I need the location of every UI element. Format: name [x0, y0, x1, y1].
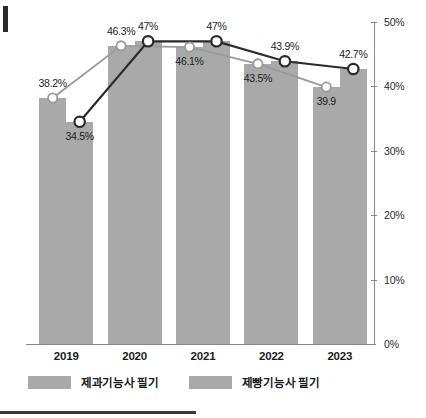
chart-container: 0%10%20%30%40%50% 20192020202120222023 3…	[0, 0, 426, 418]
value-label: 43.5%	[244, 72, 272, 84]
y-axis-tick-label: 40%	[384, 80, 404, 92]
x-axis-label: 2020	[122, 350, 147, 362]
bar	[313, 87, 340, 344]
y-axis-tick	[371, 86, 377, 87]
x-axis-label: 2022	[259, 350, 284, 362]
bar	[39, 98, 66, 344]
y-axis-tick-label: 50%	[384, 16, 404, 28]
bar	[108, 46, 135, 344]
legend-item-0: 제과기능사 필기	[28, 374, 159, 390]
bar	[203, 41, 230, 344]
y-axis-tick-label: 10%	[384, 274, 404, 286]
legend-item-1: 제빵기능사 필기	[189, 374, 320, 390]
value-label: 38.2%	[39, 77, 67, 89]
y-axis-tick	[371, 151, 377, 152]
value-label: 39.9	[317, 95, 336, 107]
bar	[340, 69, 367, 344]
value-label: 43.9%	[271, 40, 299, 52]
bar	[176, 47, 203, 344]
value-label: 47%	[138, 20, 158, 32]
bar	[244, 64, 271, 344]
value-label: 47%	[206, 20, 226, 32]
y-axis-tick	[371, 215, 377, 216]
chart-legend: 제과기능사 필기 제빵기능사 필기	[28, 374, 350, 390]
value-label: 46.1%	[175, 55, 203, 67]
decorative-bottom-rule	[0, 411, 196, 414]
x-axis-line	[26, 344, 376, 345]
x-axis-label: 2023	[327, 350, 352, 362]
y-axis-tick	[371, 280, 377, 281]
bar	[66, 122, 93, 344]
bar	[271, 61, 298, 344]
y-axis-line	[374, 22, 375, 344]
legend-swatch-icon-1	[189, 376, 232, 389]
y-axis-tick-label: 20%	[384, 209, 404, 221]
value-label: 46.3%	[107, 25, 135, 37]
y-axis-tick	[371, 22, 377, 23]
legend-swatch-icon-0	[28, 376, 71, 389]
decorative-top-left-mark	[3, 6, 8, 32]
plot-area	[32, 22, 374, 344]
value-label: 34.5%	[66, 130, 94, 142]
y-axis-tick-label: 0%	[384, 338, 399, 350]
y-axis-tick-label: 30%	[384, 145, 404, 157]
bar	[135, 41, 162, 344]
x-axis-label: 2021	[191, 350, 216, 362]
x-axis-label: 2019	[54, 350, 79, 362]
legend-label-1: 제빵기능사 필기	[242, 374, 320, 390]
value-label: 42.7%	[339, 48, 367, 60]
legend-label-0: 제과기능사 필기	[81, 374, 159, 390]
